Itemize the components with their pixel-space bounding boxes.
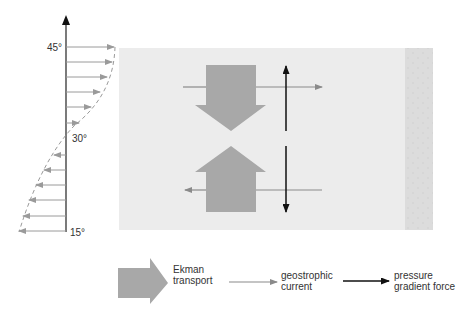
legend bbox=[118, 258, 389, 304]
latitude-label-15: 15° bbox=[70, 227, 85, 238]
legend-ekman-label: Ekman transport bbox=[173, 264, 212, 286]
legend-pressure-line2: gradient force bbox=[394, 281, 455, 292]
axis-arrow-icon bbox=[62, 15, 70, 25]
legend-pressure-line1: pressure bbox=[394, 270, 455, 281]
legend-geostrophic-line1: geostrophic bbox=[281, 270, 333, 281]
legend-pressure-label: pressure gradient force bbox=[394, 270, 455, 292]
legend-ekman-line2: transport bbox=[173, 275, 212, 286]
legend-geostrophic-line2: current bbox=[281, 281, 333, 292]
ocean-basin bbox=[119, 48, 433, 230]
wind-profile bbox=[19, 15, 115, 232]
legend-ekman-icon bbox=[118, 258, 168, 304]
legend-ekman-line1: Ekman bbox=[173, 264, 212, 275]
ekman-diagram bbox=[0, 0, 461, 318]
latitude-label-45: 45° bbox=[47, 42, 62, 53]
latitude-label-30: 30° bbox=[72, 133, 87, 144]
legend-geostrophic-label: geostrophic current bbox=[281, 270, 333, 292]
coastline-land bbox=[405, 48, 433, 230]
